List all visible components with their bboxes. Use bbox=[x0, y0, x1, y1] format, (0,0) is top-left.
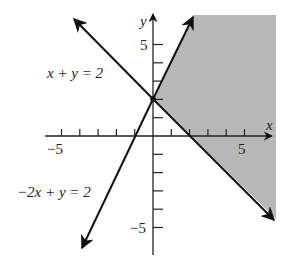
intersection-point bbox=[150, 96, 156, 102]
line-x-plus-y-eq-2 bbox=[74, 19, 153, 99]
y-axis-label: y bbox=[138, 13, 147, 29]
x-tick-label-5: 5 bbox=[238, 141, 246, 157]
equation-label-1: x + y = 2 bbox=[46, 65, 104, 81]
chart: −5 5 5 −5 x y x + y = 2 −2x + y = 2 bbox=[0, 0, 291, 261]
equation-label-2: −2x + y = 2 bbox=[17, 184, 91, 200]
y-tick-label-neg5: −5 bbox=[130, 220, 146, 236]
x-axis-label: x bbox=[265, 117, 273, 133]
y-tick-label-5: 5 bbox=[140, 37, 148, 53]
x-tick-label-neg5: −5 bbox=[47, 141, 63, 157]
